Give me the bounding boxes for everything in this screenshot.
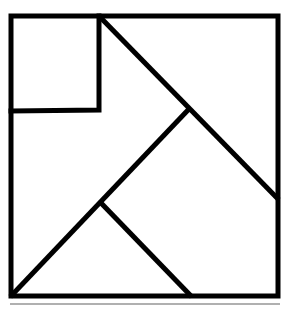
tangram-diagram <box>0 0 293 312</box>
small-square-edges <box>11 16 99 111</box>
short-diagonal <box>103 205 190 295</box>
top-diagonal <box>100 17 277 198</box>
